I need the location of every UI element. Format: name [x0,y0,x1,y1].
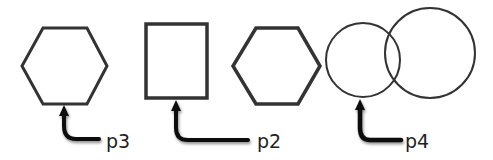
label-p3: p3 [106,130,130,152]
shapes-diagram: p3 p2 p4 [0,0,493,160]
callout-arrow-p3 [59,105,99,139]
hexagon-shape-1 [22,28,107,104]
hexagon-shape-2 [233,28,320,104]
callout-arrow-p2 [171,100,248,140]
rectangle-shape [146,24,207,98]
label-p4: p4 [405,130,429,152]
label-p2: p2 [257,130,281,152]
callout-arrow-p4 [355,99,401,140]
